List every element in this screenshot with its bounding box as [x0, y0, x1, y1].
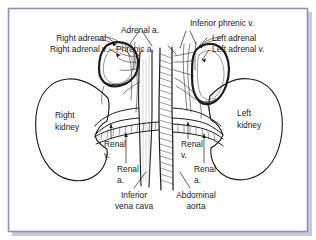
- label-right-kidney-line1: Right: [55, 110, 75, 120]
- label-renal-vein-right-line1: Renal: [104, 139, 126, 149]
- label-right-adrenal-vein: Right adrenal v.: [50, 44, 108, 54]
- label-left-kidney-line2: kidney: [237, 120, 262, 130]
- label-renal-vein-right-line2: v.: [104, 150, 110, 160]
- label-abdominal-aorta-line2: aorta: [186, 201, 205, 211]
- label-right-kidney-line2: kidney: [55, 122, 80, 132]
- label-renal-artery-right-line2: a.: [117, 175, 124, 185]
- label-left-adrenal-vein: Left adrenal v.: [212, 44, 264, 54]
- label-left-adrenal: Left adrenal: [212, 33, 256, 43]
- label-renal-vein-left-line1: Renal: [181, 139, 203, 149]
- label-inferior-phrenic-vein: Inferior phrenic v.: [190, 18, 254, 28]
- label-left-kidney-line1: Left: [237, 108, 252, 118]
- label-inferior-vena-cava-line2: vena cava: [115, 201, 154, 211]
- label-phrenic-artery: Phrenic a.: [116, 44, 154, 54]
- anatomy-diagram: Right adrenal Right adrenal v. Adrenal a…: [0, 0, 316, 240]
- label-renal-artery-left-line1: Renal: [194, 164, 216, 174]
- figure-page: [8, 8, 308, 232]
- label-abdominal-aorta-line1: Abdominal: [176, 190, 216, 200]
- label-adrenal-artery: Adrenal a.: [121, 25, 159, 35]
- label-renal-vein-left-line2: v.: [181, 150, 187, 160]
- label-right-adrenal: Right adrenal: [56, 33, 106, 43]
- label-inferior-vena-cava-line1: Inferior: [121, 190, 147, 200]
- label-renal-artery-left-line2: a.: [194, 175, 201, 185]
- label-renal-artery-right-line1: Renal: [117, 164, 139, 174]
- figure-frame: Right adrenal Right adrenal v. Adrenal a…: [0, 0, 316, 240]
